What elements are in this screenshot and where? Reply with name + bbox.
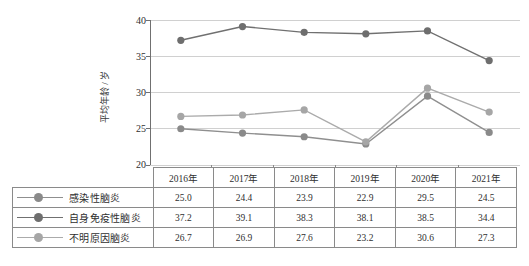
cell-unknown-2016: 26.7	[153, 228, 214, 248]
series-line-0	[181, 96, 489, 144]
legend-marker-icon	[17, 192, 63, 203]
data-point	[362, 138, 369, 145]
data-point	[301, 106, 308, 113]
table-header-2016: 2016年	[153, 168, 214, 188]
cell-infectious-2020: 29.5	[395, 188, 456, 208]
data-point	[362, 30, 369, 37]
table-row: 自身免疫性脑炎 37.2 39.1 38.3 38.1 38.5 34.4	[13, 208, 517, 228]
encephalitis-mean-age-figure: 平均年龄 / 岁 40 35 30 25 20 2016年 2017年 2018…	[0, 0, 529, 266]
table-header-2021: 2021年	[456, 168, 517, 188]
legend-marker-icon	[17, 212, 63, 223]
data-point	[424, 27, 431, 34]
legend-item-autoimmune: 自身免疫性脑炎	[13, 208, 154, 228]
cell-autoimmune-2021: 34.4	[456, 208, 517, 228]
table-corner-cell	[13, 168, 154, 188]
gridlines	[150, 20, 520, 165]
table-header-2018: 2018年	[274, 168, 335, 188]
cell-unknown-2021: 27.3	[456, 228, 517, 248]
data-point	[177, 125, 184, 132]
data-point	[301, 133, 308, 140]
table-header-row: 2016年 2017年 2018年 2019年 2020年 2021年	[13, 168, 517, 188]
cell-autoimmune-2017: 39.1	[214, 208, 275, 228]
cell-infectious-2017: 24.4	[214, 188, 275, 208]
cell-autoimmune-2019: 38.1	[335, 208, 396, 228]
cell-infectious-2021: 24.5	[456, 188, 517, 208]
cell-unknown-2019: 23.2	[335, 228, 396, 248]
data-point	[301, 29, 308, 36]
data-point	[486, 129, 493, 136]
data-table: 2016年 2017年 2018年 2019年 2020年 2021年 感染性脑…	[12, 167, 517, 248]
table-row: 不明原因脑炎 26.7 26.9 27.6 23.2 30.6 27.3	[13, 228, 517, 248]
data-point	[239, 23, 246, 30]
series-line-2	[181, 88, 489, 142]
series-line-1	[181, 27, 489, 61]
legend-label-infectious: 感染性脑炎	[69, 190, 121, 205]
data-point	[239, 111, 246, 118]
data-point	[177, 113, 184, 120]
table-header-2017: 2017年	[214, 168, 275, 188]
legend-label-unknown: 不明原因脑炎	[69, 230, 131, 245]
line-chart: 平均年龄 / 岁 40 35 30 25 20	[0, 0, 529, 180]
cell-infectious-2016: 25.0	[153, 188, 214, 208]
cell-unknown-2017: 26.9	[214, 228, 275, 248]
cell-infectious-2018: 23.9	[274, 188, 335, 208]
cell-autoimmune-2018: 38.3	[274, 208, 335, 228]
legend-item-infectious: 感染性脑炎	[13, 188, 154, 208]
data-point	[177, 37, 184, 44]
data-point	[239, 130, 246, 137]
table-header-2020: 2020年	[395, 168, 456, 188]
legend-marker-icon	[17, 232, 63, 243]
data-point	[424, 93, 431, 100]
cell-infectious-2019: 22.9	[335, 188, 396, 208]
legend-label-autoimmune: 自身免疫性脑炎	[69, 210, 141, 225]
data-point	[424, 85, 431, 92]
cell-autoimmune-2020: 38.5	[395, 208, 456, 228]
cell-unknown-2020: 30.6	[395, 228, 456, 248]
data-point	[486, 57, 493, 64]
table-row: 感染性脑炎 25.0 24.4 23.9 22.9 29.5 24.5	[13, 188, 517, 208]
legend-item-unknown: 不明原因脑炎	[13, 228, 154, 248]
table-header-2019: 2019年	[335, 168, 396, 188]
data-point	[486, 108, 493, 115]
chart-plot-svg	[0, 0, 529, 180]
cell-autoimmune-2016: 37.2	[153, 208, 214, 228]
cell-unknown-2018: 27.6	[274, 228, 335, 248]
axis-lines	[146, 20, 458, 167]
